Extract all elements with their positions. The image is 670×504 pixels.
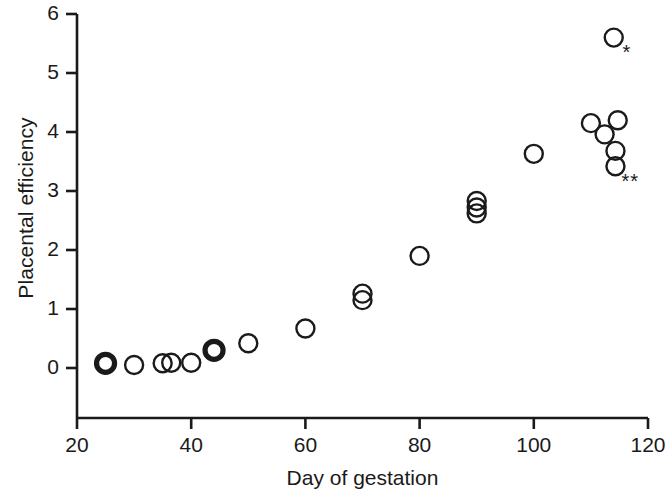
data-point-marker [609, 111, 627, 129]
data-point-marker [605, 29, 623, 47]
data-point-marker [596, 125, 614, 143]
data-point-marker [205, 341, 223, 359]
data-point-marker [125, 356, 143, 374]
data-point-marker [296, 319, 314, 337]
data-points-group [97, 29, 627, 374]
data-point-marker [97, 354, 115, 372]
data-point-marker [182, 354, 200, 372]
data-point-marker [525, 145, 543, 163]
data-point-marker [239, 334, 257, 352]
data-point-marker [411, 247, 429, 265]
